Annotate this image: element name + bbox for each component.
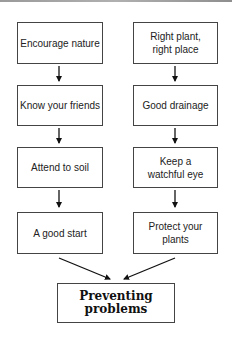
box-label: Good drainage <box>142 99 208 112</box>
box-preventing-problems: Preventing problems <box>57 283 175 323</box>
box-attend-to-soil: Attend to soil <box>17 147 103 188</box>
box-know-your-friends: Know your friends <box>17 85 103 126</box>
box-good-drainage: Good drainage <box>133 85 218 126</box>
final-label: Preventing problems <box>58 290 174 316</box>
box-label: Right plant, right place <box>150 30 201 56</box>
arrow-diagonal-icon <box>59 258 110 279</box>
box-protect-your-plants: Protect your plants <box>133 212 218 254</box>
box-keep-a-watchful-eye: Keep a watchful eye <box>133 147 218 188</box>
box-label: Know your friends <box>20 99 100 112</box>
box-label: A good start <box>33 227 86 240</box>
box-a-good-start: A good start <box>17 212 103 254</box>
box-label: Protect your plants <box>134 220 217 246</box>
box-label: Encourage nature <box>20 37 100 50</box>
box-label: Keep a watchful eye <box>148 155 204 181</box>
box-label: Attend to soil <box>31 161 89 174</box>
box-right-plant-right-place: Right plant, right place <box>133 22 218 64</box>
box-encourage-nature: Encourage nature <box>17 22 103 64</box>
arrow-diagonal-icon <box>124 258 175 279</box>
